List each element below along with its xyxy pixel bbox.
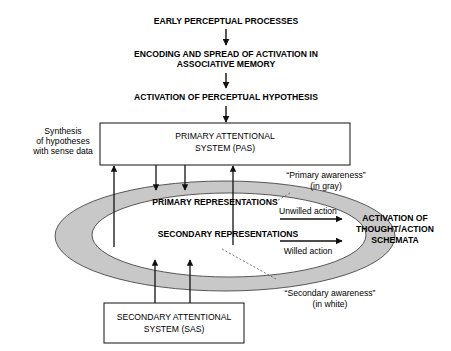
synthesis-label-line2: of hypotheses — [36, 136, 90, 146]
primary-representations-label: PRIMARY REPRESENTATIONS — [152, 197, 278, 207]
output-label-line1: ACTIVATION OF — [362, 213, 428, 223]
synthesis-label-line3: with sense data — [32, 146, 93, 156]
output-label-line2: THOUGHT/ACTION — [356, 224, 434, 234]
primary-awareness-line1: “Primary awareness” — [286, 170, 365, 180]
pas-label-line1: PRIMARY ATTENTIONAL — [175, 131, 275, 141]
flow-step-encoding-line2: ASSOCIATIVE MEMORY — [177, 59, 276, 69]
diagram-canvas: EARLY PERCEPTUAL PROCESSES ENCODING AND … — [0, 0, 451, 351]
pas-label-line2: SYSTEM (PAS) — [195, 143, 255, 153]
flow-step-encoding-line1: ENCODING AND SPREAD OF ACTIVATION IN — [134, 49, 318, 59]
flow-step-activation: ACTIVATION OF PERCEPTUAL HYPOTHESIS — [134, 92, 318, 102]
willed-action-label: Willed action — [284, 246, 333, 256]
output-label-line3: SCHEMATA — [371, 235, 418, 245]
sas-label-line2: SYSTEM (SAS) — [144, 324, 205, 334]
unwilled-action-label: Unwilled action — [279, 206, 337, 216]
primary-awareness-line2: (in gray) — [310, 181, 342, 191]
flow-step-early-perceptual: EARLY PERCEPTUAL PROCESSES — [154, 16, 299, 26]
secondary-awareness-line2: (in white) — [313, 299, 348, 309]
sas-label-line1: SECONDARY ATTENTIONAL — [117, 312, 232, 322]
secondary-awareness-line1: “Secondary awareness” — [285, 288, 376, 298]
sas-box — [104, 303, 244, 343]
synthesis-label-line1: Synthesis — [44, 126, 81, 136]
secondary-representations-label: SECONDARY REPRESENTATIONS — [158, 229, 299, 239]
